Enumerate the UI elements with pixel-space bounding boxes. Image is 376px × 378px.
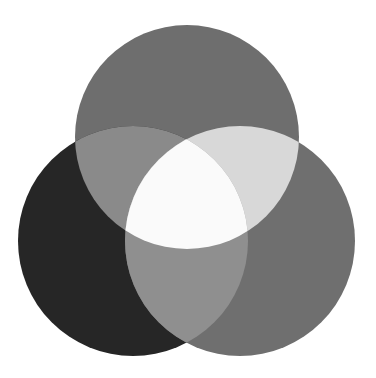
venn-diagram-svg [0,0,376,378]
venn-diagram [0,0,376,378]
